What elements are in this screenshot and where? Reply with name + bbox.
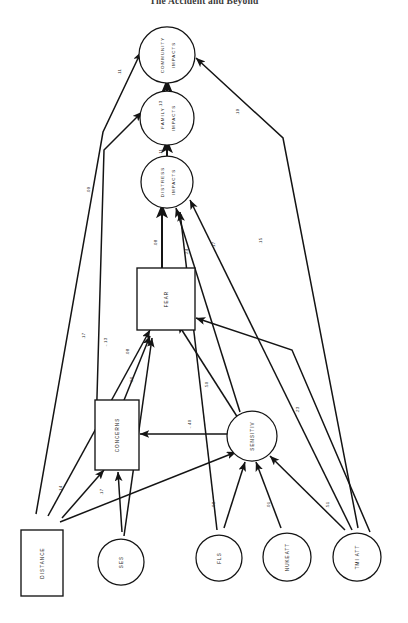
coef-tmiatt-to-distress: .15 xyxy=(258,237,263,244)
node-distance[interactable]: DISTANCE xyxy=(21,530,63,596)
path-concerns-to-fear xyxy=(120,336,150,410)
coef-sensitiv-to-distress: .24 xyxy=(184,248,189,255)
path-ses-to-concerns xyxy=(118,472,122,532)
coef-concerns-to-family: .09 xyxy=(86,186,91,193)
coef-distance-to-fear: .17 xyxy=(81,332,86,339)
path-fls-to-sensitiv xyxy=(224,462,245,528)
coef-distress-to-family: .11 xyxy=(158,148,163,155)
node-fear[interactable]: FEAR xyxy=(137,268,195,330)
nodes: COMMUNITY IMPACTS FAMILY IMPACTS DISTRES… xyxy=(21,27,381,596)
node-distress-impacts-line2: IMPACTS xyxy=(171,169,176,196)
path-tmiatt-to-fear xyxy=(196,318,370,532)
node-fear-label: FEAR xyxy=(164,291,169,307)
coef-distance-to-sensitiv: .06 xyxy=(129,376,134,383)
coef-fear-to-distress: .08 xyxy=(153,239,158,246)
node-concerns[interactable]: CONCERNS xyxy=(95,400,139,470)
coef-sensitiv-to-concerns: -.40 xyxy=(187,419,192,428)
node-sensitiv[interactable]: SENSITIV xyxy=(227,411,277,461)
coef-sensitiv-to-fear: .50 xyxy=(204,381,209,388)
path-distance-to-sensitiv xyxy=(60,452,236,522)
node-tmi-att[interactable]: TMI ATT xyxy=(333,533,381,581)
node-sensitiv-label: SENSITIV xyxy=(250,421,255,450)
node-fls[interactable]: FLS xyxy=(196,535,242,581)
node-fls-label: FLS xyxy=(217,552,222,564)
node-nukeatt-label: NUKEATT xyxy=(285,543,290,571)
coef-fls-to-sensitiv: .08 xyxy=(211,501,216,508)
coef-distress-to-community: .13 xyxy=(158,100,163,107)
coef-distance-to-community: .11 xyxy=(117,68,122,75)
node-nukeatt[interactable]: NUKEATT xyxy=(263,533,311,581)
coef-nukeatt-to-sensitiv: .01 xyxy=(266,501,271,508)
coef-ses-to-concerns: .17 xyxy=(99,488,104,495)
node-distance-label: DISTANCE xyxy=(40,547,45,578)
coef-tmiatt-to-sensitiv: .51 xyxy=(325,501,330,508)
node-ses-label: SES xyxy=(119,556,124,568)
node-community-impacts-line2: IMPACTS xyxy=(171,42,176,69)
node-ses[interactable]: SES xyxy=(98,539,144,585)
path-sensitiv-to-fear xyxy=(178,324,238,418)
coef-fls-to-distress: .17 xyxy=(211,241,216,248)
coef-tmiatt-to-fear: .23 xyxy=(295,406,300,413)
coef-tmiatt-to-community: .19 xyxy=(235,108,240,115)
path-nukeatt-to-sensitiv xyxy=(256,462,281,528)
coef-ses-to-fear: .08 xyxy=(125,348,130,355)
path-diagram-figure: COMMUNITY IMPACTS FAMILY IMPACTS DISTRES… xyxy=(0,0,408,623)
path-lines xyxy=(36,52,370,536)
node-community-impacts-line1: COMMUNITY xyxy=(160,37,165,74)
diagram-canvas: COMMUNITY IMPACTS FAMILY IMPACTS DISTRES… xyxy=(0,0,408,623)
coef-distance-to-concerns: .14 xyxy=(58,485,63,492)
path-concerns-to-family xyxy=(96,112,142,432)
node-family-impacts[interactable]: FAMILY IMPACTS xyxy=(140,91,194,145)
node-concerns-label: CONCERNS xyxy=(115,418,120,453)
path-fls-to-distress xyxy=(180,212,217,530)
node-family-impacts-line2: IMPACTS xyxy=(171,105,176,132)
coef-concerns-to-fear: -.13 xyxy=(103,337,108,346)
node-tmi-att-label: TMI ATT xyxy=(355,545,360,570)
node-family-impacts-line1: FAMILY xyxy=(160,107,165,129)
node-distress-impacts-line1: DISTRESS xyxy=(160,167,165,197)
node-distress-impacts[interactable]: DISTRESS IMPACTS xyxy=(141,156,193,208)
node-community-impacts[interactable]: COMMUNITY IMPACTS xyxy=(139,27,195,83)
